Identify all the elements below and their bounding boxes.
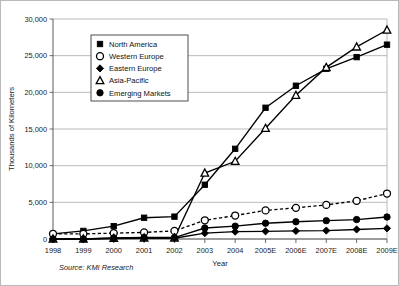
x-axis-tick-label: 2001	[136, 246, 152, 255]
series-line-eastern-europe	[53, 228, 387, 239]
data-point-north-america	[172, 214, 177, 219]
data-point-north-america	[111, 223, 116, 228]
x-axis-tick-label: 2002	[166, 246, 182, 255]
data-point-eastern-europe	[262, 228, 269, 235]
x-axis-title: Year	[212, 259, 228, 268]
y-axis-tick-label: 25,000	[24, 51, 47, 60]
data-point-emerging-markets	[262, 220, 268, 226]
y-axis-tick-label: 5,000	[29, 198, 48, 207]
data-point-asia-pacific	[353, 43, 361, 50]
data-point-eastern-europe	[323, 227, 330, 234]
y-axis-tick-label: 0	[43, 235, 47, 244]
data-point-emerging-markets	[232, 223, 238, 229]
legend-marker-circle-filled	[97, 90, 103, 96]
legend-label-asia-pacific: Asia-Pacific	[109, 76, 149, 85]
chart-figure: 05,00010,00015,00020,00025,00030,0001998…	[0, 0, 399, 286]
data-point-asia-pacific	[383, 26, 391, 33]
data-point-north-america	[293, 83, 298, 88]
data-point-emerging-markets	[80, 236, 86, 242]
legend-label-eastern-europe: Eastern Europe	[109, 64, 162, 73]
y-axis-title: Thousands of Kilometers	[7, 87, 16, 171]
x-axis-tick-label: 2003	[197, 246, 213, 255]
data-point-emerging-markets	[202, 225, 208, 231]
data-point-emerging-markets	[353, 216, 359, 222]
data-point-north-america	[202, 182, 207, 187]
x-axis-tick-label: 2004	[227, 246, 243, 255]
data-point-eastern-europe	[383, 225, 390, 232]
x-axis-tick-label: 2009E	[376, 246, 397, 255]
data-point-western-europe	[262, 207, 269, 214]
legend-label-emerging-markets: Emerging Markets	[109, 89, 171, 98]
data-point-emerging-markets	[323, 217, 329, 223]
data-point-western-europe	[232, 212, 239, 219]
x-axis-tick-label: 2006E	[285, 246, 306, 255]
data-point-north-america	[232, 146, 237, 151]
source-note: Source: KMI Research	[59, 263, 133, 272]
x-axis-tick-label: 2007E	[316, 246, 337, 255]
data-point-western-europe	[323, 201, 330, 208]
data-point-western-europe	[292, 204, 299, 211]
data-point-emerging-markets	[384, 214, 390, 220]
legend-label-north-america: North America	[109, 40, 158, 49]
legend-marker-circle-open	[97, 53, 104, 60]
x-axis-tick-label: 2005E	[255, 246, 276, 255]
data-point-western-europe	[384, 190, 391, 197]
y-axis-tick-label: 30,000	[24, 15, 47, 24]
legend-label-western-europe: Western Europe	[109, 52, 164, 61]
data-point-emerging-markets	[141, 234, 147, 240]
data-point-western-europe	[201, 217, 208, 224]
x-axis-tick-label: 2000	[106, 246, 122, 255]
legend-marker-square-filled	[97, 41, 102, 46]
data-point-emerging-markets	[50, 236, 56, 242]
line-chart: 05,00010,00015,00020,00025,00030,0001998…	[1, 1, 399, 286]
y-axis-tick-label: 15,000	[24, 125, 47, 134]
y-axis-tick-label: 20,000	[24, 88, 47, 97]
data-point-emerging-markets	[111, 235, 117, 241]
x-axis-tick-label: 1998	[45, 246, 61, 255]
data-point-emerging-markets	[293, 219, 299, 225]
y-axis-tick-label: 10,000	[24, 161, 47, 170]
data-point-north-america	[263, 105, 268, 110]
data-point-north-america	[141, 215, 146, 220]
x-axis-tick-label: 1999	[75, 246, 91, 255]
x-axis-tick-label: 2008E	[346, 246, 367, 255]
data-point-eastern-europe	[353, 226, 360, 233]
data-point-eastern-europe	[292, 227, 299, 234]
data-point-emerging-markets	[171, 234, 177, 240]
data-point-western-europe	[353, 197, 360, 204]
data-point-north-america	[354, 54, 359, 59]
data-point-north-america	[384, 42, 389, 47]
